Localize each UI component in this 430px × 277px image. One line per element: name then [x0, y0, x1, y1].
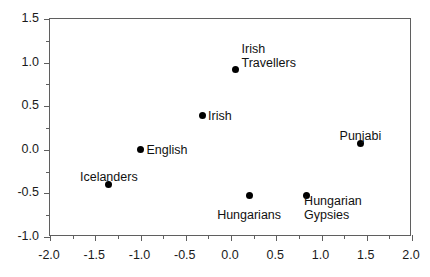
- x-tick-label: -2.0: [38, 248, 60, 262]
- data-point-label: Irish: [208, 109, 232, 123]
- x-tick-label: 1.5: [357, 248, 374, 262]
- y-tick: [44, 106, 50, 107]
- data-point[interactable]: [199, 112, 206, 119]
- data-point[interactable]: [232, 66, 239, 73]
- data-point-label-line: English: [147, 143, 188, 157]
- x-tick-minor: [389, 235, 390, 239]
- x-tick-label: -1.5: [83, 248, 105, 262]
- data-point-label: HungarianGypsies: [304, 194, 362, 222]
- x-tick: [50, 235, 51, 241]
- x-tick-minor: [163, 235, 164, 239]
- y-tick: [44, 63, 50, 64]
- x-tick: [412, 235, 413, 241]
- y-tick: [44, 150, 50, 151]
- x-tick-minor: [118, 235, 119, 239]
- y-tick-label: 0.5: [0, 98, 39, 112]
- y-tick-label: 1.5: [0, 11, 39, 25]
- y-tick-minor: [46, 41, 50, 42]
- data-point-label: Icelanders: [80, 170, 138, 184]
- y-tick: [44, 193, 50, 194]
- data-point[interactable]: [137, 146, 144, 153]
- x-tick: [322, 235, 323, 241]
- y-tick-label: -1.0: [0, 229, 39, 243]
- x-tick: [367, 235, 368, 241]
- data-point-label-line: Hungarian: [304, 194, 362, 208]
- x-tick-minor: [208, 235, 209, 239]
- x-tick-minor: [299, 235, 300, 239]
- data-point[interactable]: [246, 192, 253, 199]
- data-point-label: Punjabi: [340, 129, 382, 143]
- x-tick-label: 1.0: [312, 248, 329, 262]
- x-tick-minor: [254, 235, 255, 239]
- data-point-label-line: Irish: [242, 42, 296, 56]
- x-tick-minor: [73, 235, 74, 239]
- x-tick-minor: [344, 235, 345, 239]
- y-tick: [44, 19, 50, 20]
- y-tick-minor: [46, 215, 50, 216]
- data-point-label-line: Punjabi: [340, 129, 382, 143]
- x-tick-label: -0.5: [174, 248, 196, 262]
- data-point-label: IrishTravellers: [242, 42, 296, 70]
- data-point-label-line: Gypsies: [304, 208, 362, 222]
- x-tick-label: 0.0: [221, 248, 238, 262]
- x-tick-label: -1.0: [129, 248, 151, 262]
- plot-area: IrishTravellersIrishEnglishIcelandersPun…: [49, 18, 411, 236]
- y-tick-label: 1.0: [0, 55, 39, 69]
- y-tick-minor: [46, 172, 50, 173]
- y-tick-minor: [46, 84, 50, 85]
- data-point-label-line: Icelanders: [80, 170, 138, 184]
- y-tick-minor: [46, 128, 50, 129]
- y-tick-label: -0.5: [0, 185, 39, 199]
- data-point-label: Hungarians: [217, 208, 281, 222]
- x-tick-label: 2.0: [402, 248, 419, 262]
- data-point-label: English: [147, 143, 188, 157]
- x-tick: [231, 235, 232, 241]
- x-tick: [186, 235, 187, 241]
- data-point-label-line: Hungarians: [217, 208, 281, 222]
- scatter-plot-figure: IrishTravellersIrishEnglishIcelandersPun…: [0, 0, 430, 277]
- x-tick: [276, 235, 277, 241]
- x-tick: [95, 235, 96, 241]
- data-point-label-line: Irish: [208, 109, 232, 123]
- y-tick-label: 0.0: [0, 142, 39, 156]
- data-point-label-line: Travellers: [242, 56, 296, 70]
- x-tick-label: 0.5: [267, 248, 284, 262]
- x-tick: [141, 235, 142, 241]
